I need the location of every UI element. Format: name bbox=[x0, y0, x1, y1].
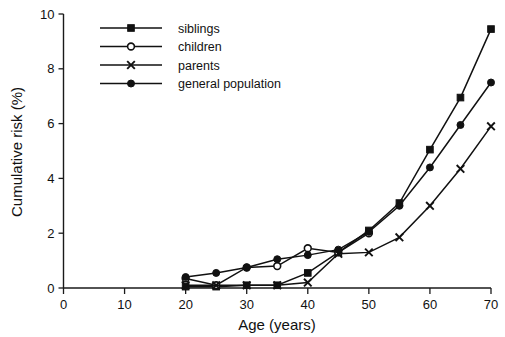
x-axis-title: Age (years) bbox=[238, 316, 316, 333]
x-tick-label: 60 bbox=[423, 297, 437, 312]
data-series-layer bbox=[182, 26, 495, 290]
data-point-marker bbox=[396, 202, 403, 209]
series-parents bbox=[182, 123, 495, 290]
x-tick-label: 10 bbox=[117, 297, 131, 312]
series-general-population bbox=[182, 79, 494, 281]
legend-marker bbox=[128, 25, 135, 32]
data-point-marker bbox=[426, 164, 433, 171]
y-tick-label: 2 bbox=[47, 226, 54, 241]
legend-marker bbox=[128, 43, 135, 50]
legend-entry-parents: parents bbox=[100, 59, 220, 73]
legend-entry-children: children bbox=[100, 40, 222, 54]
data-point-marker bbox=[365, 228, 372, 235]
y-tick-label: 0 bbox=[47, 281, 54, 296]
data-point-marker bbox=[335, 246, 342, 253]
x-axis-tick-labels: 010203040506070 bbox=[60, 297, 498, 312]
data-point-marker bbox=[213, 269, 220, 276]
data-point-marker bbox=[487, 123, 495, 131]
y-tick-label: 10 bbox=[40, 7, 54, 22]
data-point-marker bbox=[304, 252, 311, 259]
legend-entry-general-population: general population bbox=[100, 77, 281, 91]
x-tick-label: 30 bbox=[239, 297, 253, 312]
legend-label: parents bbox=[178, 59, 220, 73]
x-tick-label: 0 bbox=[60, 297, 67, 312]
data-point-marker bbox=[488, 79, 495, 86]
data-point-marker bbox=[182, 274, 189, 281]
data-point-marker bbox=[274, 263, 281, 270]
data-point-marker bbox=[304, 245, 311, 252]
cumulative-risk-line-chart: 0246810 010203040506070 Cumulative risk … bbox=[0, 0, 505, 337]
legend-marker bbox=[128, 80, 135, 87]
data-point-marker bbox=[427, 146, 434, 153]
chart-figure: 0246810 010203040506070 Cumulative risk … bbox=[0, 0, 505, 337]
legend-label: children bbox=[178, 40, 222, 54]
data-point-marker bbox=[304, 270, 311, 277]
x-tick-label: 50 bbox=[362, 297, 376, 312]
data-point-marker bbox=[457, 121, 464, 128]
x-tick-label: 40 bbox=[301, 297, 315, 312]
y-tick-label: 4 bbox=[47, 171, 54, 186]
y-axis-ticks bbox=[59, 14, 64, 288]
data-point-marker bbox=[243, 264, 250, 271]
data-point-marker bbox=[274, 256, 281, 263]
series-line bbox=[186, 126, 491, 285]
data-point-marker bbox=[426, 202, 434, 210]
data-point-marker bbox=[396, 234, 404, 242]
data-point-marker bbox=[457, 94, 464, 101]
y-axis-title: Cumulative risk (%) bbox=[8, 87, 25, 217]
data-point-marker bbox=[488, 26, 495, 33]
legend-entry-siblings: siblings bbox=[100, 22, 220, 36]
y-axis-tick-labels: 0246810 bbox=[40, 7, 54, 296]
data-point-marker bbox=[457, 165, 465, 173]
x-tick-label: 20 bbox=[178, 297, 192, 312]
y-tick-label: 6 bbox=[47, 116, 54, 131]
legend-label: general population bbox=[178, 77, 281, 91]
x-tick-label: 70 bbox=[484, 297, 498, 312]
chart-legend: siblingschildrenparentsgeneral populatio… bbox=[100, 22, 281, 92]
legend-label: siblings bbox=[178, 22, 220, 36]
y-tick-label: 8 bbox=[47, 61, 54, 76]
